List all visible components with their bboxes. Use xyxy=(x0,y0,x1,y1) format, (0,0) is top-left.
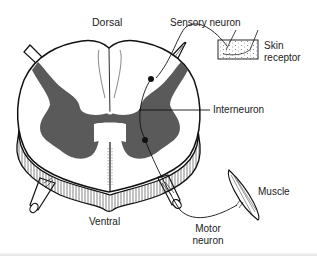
skin-receptor xyxy=(218,30,258,59)
spinal-cord-illustration xyxy=(0,0,317,256)
spinal-reflex-diagram: Dorsal Sensory neuron Skin receptor Inte… xyxy=(0,0,317,256)
sensory-neuron-label: Sensory neuron xyxy=(170,17,241,28)
motor-neuron-label-line1: Motor xyxy=(193,223,223,234)
dorsal-label: Dorsal xyxy=(92,17,122,28)
motor-neuron-label-line2: neuron xyxy=(191,235,225,246)
muscle xyxy=(229,170,259,220)
interneuron-label: Interneuron xyxy=(213,104,264,115)
central-canal xyxy=(108,111,113,114)
skin-receptor-label-line1: Skin xyxy=(264,40,283,51)
ventral-label: Ventral xyxy=(89,216,120,227)
skin-receptor-label-line2: receptor xyxy=(264,52,301,63)
muscle-label: Muscle xyxy=(258,186,290,197)
